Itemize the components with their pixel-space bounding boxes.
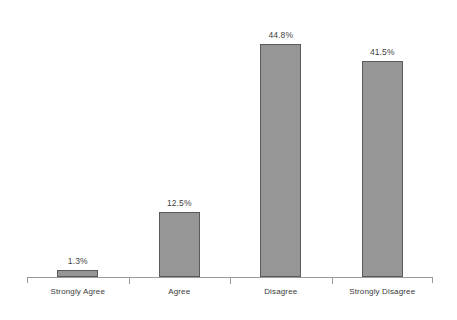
- bar-group: 12.5%: [129, 27, 231, 277]
- x-axis-category-label: Strongly Disagree: [332, 287, 434, 296]
- x-axis-tick: [332, 278, 333, 284]
- x-axis-category-label: Disagree: [230, 287, 332, 296]
- plot-area: 1.3% 12.5% 44.8% 41.5% Strongly Agree Ag…: [0, 0, 457, 320]
- x-axis-tick: [129, 278, 130, 284]
- bar-rect[interactable]: [362, 61, 403, 277]
- bar-group: 1.3%: [27, 27, 129, 277]
- bar-group: 41.5%: [332, 27, 434, 277]
- x-axis-tick: [230, 278, 231, 284]
- x-axis-category-label: Strongly Agree: [27, 287, 129, 296]
- x-axis-start-cap: [27, 277, 28, 283]
- x-axis-category-label: Agree: [129, 287, 231, 296]
- bar-rect[interactable]: [57, 270, 98, 277]
- bar-chart: 1.3% 12.5% 44.8% 41.5% Strongly Agree Ag…: [0, 0, 457, 320]
- x-axis-end-cap: [432, 277, 433, 283]
- bar-value-label: 1.3%: [27, 256, 129, 266]
- bar-rect[interactable]: [260, 44, 301, 277]
- bar-value-label: 12.5%: [129, 198, 231, 208]
- bar-value-label: 41.5%: [332, 47, 434, 57]
- bar-rect[interactable]: [159, 212, 200, 277]
- bar-group: 44.8%: [230, 27, 332, 277]
- bar-value-label: 44.8%: [230, 30, 332, 40]
